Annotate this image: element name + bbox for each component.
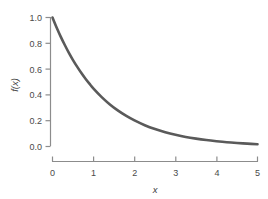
x-tick-label-0: 0 bbox=[50, 168, 55, 178]
chart-figure: 1.0 0.8 0.6 0.4 0.2 0.0 0 1 2 3 4 5 x f(… bbox=[0, 0, 268, 199]
x-tick-label-5: 5 bbox=[255, 168, 260, 178]
y-tick-label-0.0: 0.0 bbox=[29, 142, 42, 152]
x-tick-label-4: 4 bbox=[214, 168, 219, 178]
x-tick-label-2: 2 bbox=[132, 168, 137, 178]
y-tick-label-1.0: 1.0 bbox=[29, 13, 42, 23]
x-tick-label-1: 1 bbox=[91, 168, 96, 178]
y-axis-title: f(x) bbox=[9, 78, 20, 92]
exponential-decay-chart: 1.0 0.8 0.6 0.4 0.2 0.0 0 1 2 3 4 5 x f(… bbox=[0, 0, 268, 199]
y-tick-label-0.6: 0.6 bbox=[29, 65, 42, 75]
x-tick-label-3: 3 bbox=[173, 168, 178, 178]
y-tick-label-0.4: 0.4 bbox=[29, 90, 42, 100]
y-tick-label-0.8: 0.8 bbox=[29, 39, 42, 49]
y-tick-label-0.2: 0.2 bbox=[29, 116, 42, 126]
